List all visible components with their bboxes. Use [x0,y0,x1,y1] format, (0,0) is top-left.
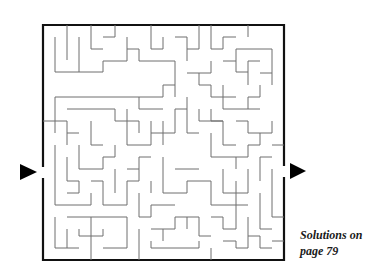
solutions-caption: Solutions on page 79 [300,227,362,259]
maze-walls [43,25,284,260]
exit-arrow-icon [290,163,306,179]
entrance-arrow-icon [20,164,37,180]
caption-line-2: page 79 [300,243,362,259]
caption-line-1: Solutions on [300,227,362,243]
